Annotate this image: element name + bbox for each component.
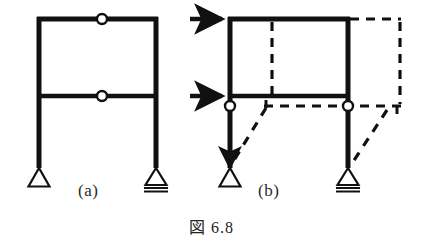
panel-b-load-arrows	[190, 19, 222, 96]
panel-b-roller-support-right	[336, 168, 360, 192]
panel-b-frame	[190, 17, 401, 192]
panel-a-roller-support-right	[144, 168, 168, 192]
roller-support-triangle-icon	[338, 168, 359, 185]
pin-support-triangle-icon	[220, 168, 241, 187]
panel-b-pin-support-left	[220, 168, 241, 187]
pin-support-triangle-icon	[29, 168, 50, 187]
panel-b-label: (b)	[258, 181, 279, 201]
panel-a-mid-beam-hinge-icon	[97, 91, 107, 101]
panel-b-members	[228, 17, 350, 168]
figure-container: (a) (b) 図 6.8	[0, 0, 423, 252]
panel-a-hinges	[97, 14, 107, 101]
roller-support-triangle-icon	[146, 168, 167, 185]
panel-a-frame	[29, 14, 169, 192]
panel-b-deformed-shape	[264, 19, 401, 106]
panel-a-label: (a)	[78, 181, 98, 201]
figure-caption: 図 6.8	[0, 214, 423, 238]
panel-b-deformed-columns	[233, 108, 387, 162]
panel-a-top-beam-hinge-icon	[97, 14, 107, 24]
deformed-left-column-displaced	[233, 108, 266, 162]
panel-b-right-joint-hinge-icon	[343, 101, 353, 111]
panel-b-left-joint-hinge-icon	[225, 101, 235, 111]
panel-a-pin-support-left	[29, 168, 50, 187]
deformed-right-column-displaced	[353, 110, 387, 162]
